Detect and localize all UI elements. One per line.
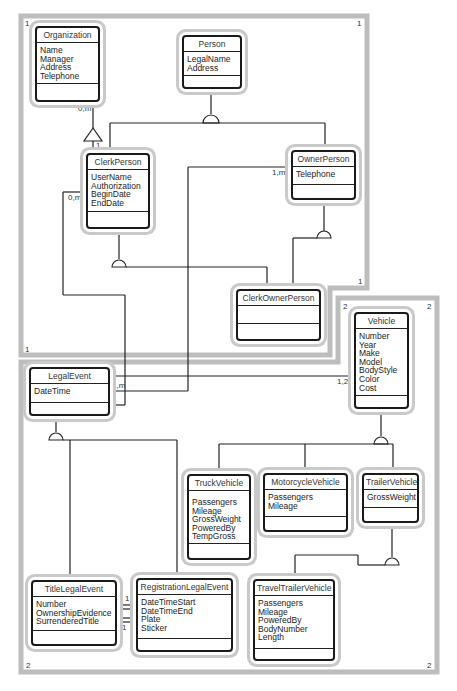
multiplicity-legal-vehicle-vehicle: 1,2 bbox=[337, 378, 348, 386]
class-person[interactable]: Person LegalName Address bbox=[182, 35, 242, 89]
class-attributes bbox=[238, 306, 319, 324]
frame-1-label-bottom-left: 1 bbox=[25, 346, 29, 354]
class-name: OwnerPerson bbox=[293, 152, 354, 167]
class-registration-legal-event[interactable]: RegistrationLegalEvent DateTimeStart Dat… bbox=[136, 578, 233, 652]
multiplicity-title-reg-lower: 1 bbox=[122, 624, 126, 632]
class-name: TravelTrailerVehicle bbox=[255, 581, 333, 596]
class-travel-trailer-vehicle[interactable]: TravelTrailerVehicle Passengers Mileage … bbox=[253, 579, 335, 661]
attribute: EndDate bbox=[91, 199, 145, 208]
class-name: LegalEvent bbox=[31, 369, 108, 384]
multiplicity-org-clerk-clerk: 1 bbox=[96, 142, 100, 150]
class-truck-vehicle[interactable]: TruckVehicle Passengers Mileage GrossWei… bbox=[187, 474, 251, 560]
class-attributes: Passengers Mileage PoweredBy BodyNumber … bbox=[255, 596, 333, 649]
class-legal-event[interactable]: LegalEvent DateTime bbox=[29, 367, 110, 416]
class-attributes: Name Manager Address Telephone bbox=[37, 43, 98, 84]
frame-2-label-bottom-right: 2 bbox=[427, 662, 431, 670]
class-clerk-owner-person[interactable]: ClerkOwnerPerson bbox=[236, 289, 321, 341]
class-attributes: DateTimeStart DateTimeEnd Plate Sticker bbox=[138, 595, 231, 639]
frame-1-label-notch: 1 bbox=[358, 278, 362, 286]
attribute: Length bbox=[258, 633, 330, 642]
attribute: Mileage bbox=[268, 502, 343, 511]
class-attributes: LegalName Address bbox=[184, 52, 240, 76]
class-attributes: Number Year Make Model BodyStyle Color C… bbox=[356, 329, 407, 396]
attribute: Address bbox=[187, 64, 237, 73]
class-organization[interactable]: Organization Name Manager Address Teleph… bbox=[35, 26, 100, 102]
class-attributes: Number OwnershipEvidence SurrenderedTitl… bbox=[33, 597, 115, 631]
class-owner-person[interactable]: OwnerPerson Telephone bbox=[291, 150, 356, 200]
class-attributes: GrossWeight bbox=[364, 490, 417, 508]
class-attributes: Passengers Mileage bbox=[265, 490, 346, 517]
attribute: TempGross bbox=[192, 532, 246, 541]
class-name: ClerkOwnerPerson bbox=[238, 291, 319, 306]
class-name: Organization bbox=[37, 28, 98, 43]
class-attributes: Telephone bbox=[293, 167, 354, 185]
class-attributes: UserName Authorization BeginDate EndDate bbox=[88, 170, 148, 212]
multiplicity-title-reg-upper: 1 bbox=[125, 595, 129, 603]
multiplicity-legal-vehicle-legal: 1 bbox=[112, 368, 116, 376]
multiplicity-legal-clerk-legal: 1 bbox=[112, 396, 116, 404]
attribute: Cost bbox=[359, 384, 404, 393]
multiplicity-legal-owner-legal: 1,m bbox=[112, 382, 125, 390]
attribute: Telephone bbox=[296, 170, 351, 179]
class-name: Vehicle bbox=[356, 314, 407, 329]
class-motorcycle-vehicle[interactable]: MotorcycleVehicle Passengers Mileage bbox=[263, 473, 348, 532]
class-trailer-vehicle[interactable]: TrailerVehicle GrossWeight bbox=[362, 473, 419, 523]
class-diagram: 1 1 1 1 2 2 2 2 0,m 1 0,m 1,m 1 1,m 1 1,… bbox=[0, 0, 457, 691]
attribute: SurrenderedTitle bbox=[36, 617, 112, 626]
multiplicity-org-clerk-org: 0,m bbox=[78, 105, 91, 113]
frame-1-label-top-left: 1 bbox=[25, 20, 29, 28]
class-name: MotorcycleVehicle bbox=[265, 475, 346, 490]
class-name: TrailerVehicle bbox=[364, 475, 417, 490]
class-name: RegistrationLegalEvent bbox=[138, 580, 231, 595]
attribute: DateTime bbox=[34, 387, 105, 396]
class-title-legal-event[interactable]: TitleLegalEvent Number OwnershipEvidence… bbox=[31, 580, 117, 646]
class-attributes: DateTime bbox=[31, 384, 108, 403]
frame-2-label-top-left: 2 bbox=[343, 303, 347, 311]
attribute: Telephone bbox=[40, 72, 95, 81]
multiplicity-owner-legal-owner: 1,m bbox=[272, 169, 285, 177]
frame-1-label-top-right: 1 bbox=[357, 20, 361, 28]
attribute: GrossWeight bbox=[367, 493, 414, 502]
multiplicity-clerk-legal-clerk: 0,m bbox=[68, 194, 81, 202]
class-name: ClerkPerson bbox=[88, 155, 148, 170]
frame-2-label-bottom-left: 2 bbox=[26, 662, 30, 670]
frame-2-label-top-right: 2 bbox=[427, 303, 431, 311]
class-name: TitleLegalEvent bbox=[33, 582, 115, 597]
class-vehicle[interactable]: Vehicle Number Year Make Model BodyStyle… bbox=[354, 312, 409, 409]
class-attributes: Passengers Mileage GrossWeight PoweredBy… bbox=[189, 491, 249, 544]
class-name: Person bbox=[184, 37, 240, 52]
class-clerk-person[interactable]: ClerkPerson UserName Authorization Begin… bbox=[86, 153, 150, 229]
class-name: TruckVehicle bbox=[189, 476, 249, 491]
attribute: Sticker bbox=[141, 624, 228, 633]
